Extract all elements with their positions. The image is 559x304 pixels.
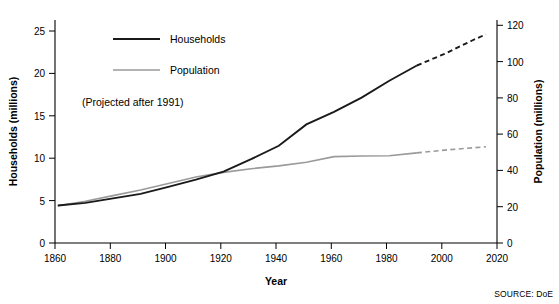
y-right-tick-60: 60 <box>507 129 519 140</box>
y-left-tick-0: 0 <box>39 238 45 249</box>
x-tick-1980: 1980 <box>375 253 398 264</box>
y-axis-left-ticks: 25 20 15 10 5 0 <box>34 26 55 249</box>
y-right-tick-20: 20 <box>507 202 519 213</box>
y-right-tick-0: 0 <box>507 238 513 249</box>
x-axis-title: Year <box>265 275 287 287</box>
y-left-tick-15: 15 <box>34 111 46 122</box>
x-tick-1920: 1920 <box>210 253 233 264</box>
x-tick-2020: 2020 <box>486 253 509 264</box>
x-tick-1860: 1860 <box>44 253 67 264</box>
x-tick-1880: 1880 <box>99 253 122 264</box>
legend-label-population: Population <box>170 64 220 76</box>
projection-annotation: (Projected after 1991) <box>82 96 184 108</box>
chart-legend: Households Population <box>113 33 225 76</box>
x-axis-ticks: 1860 1880 1900 1920 1940 1960 1980 2000 … <box>44 243 509 264</box>
source-note: SOURCE: DoE <box>494 289 553 299</box>
axis-lines <box>55 20 497 243</box>
x-tick-1940: 1940 <box>265 253 288 264</box>
x-tick-1960: 1960 <box>320 253 343 264</box>
y-left-tick-5: 5 <box>39 196 45 207</box>
y-left-tick-10: 10 <box>34 153 46 164</box>
chart-container: 25 20 15 10 5 0 120 100 80 60 40 20 0 <box>0 0 559 304</box>
y-left-tick-25: 25 <box>34 26 46 37</box>
line-chart: 25 20 15 10 5 0 120 100 80 60 40 20 0 <box>0 0 559 304</box>
y-axis-right-title: Population (millions) <box>532 80 544 184</box>
y-right-tick-120: 120 <box>507 20 524 31</box>
legend-label-households: Households <box>170 33 225 45</box>
y-axis-right-ticks: 120 100 80 60 40 20 0 <box>497 20 524 249</box>
x-tick-1900: 1900 <box>154 253 177 264</box>
y-axis-left-title: Households (millions) <box>7 77 19 187</box>
y-right-tick-80: 80 <box>507 93 519 104</box>
y-left-tick-20: 20 <box>34 68 46 79</box>
y-right-tick-100: 100 <box>507 57 524 68</box>
series-households <box>58 34 486 205</box>
x-tick-2000: 2000 <box>431 253 454 264</box>
y-right-tick-40: 40 <box>507 165 519 176</box>
